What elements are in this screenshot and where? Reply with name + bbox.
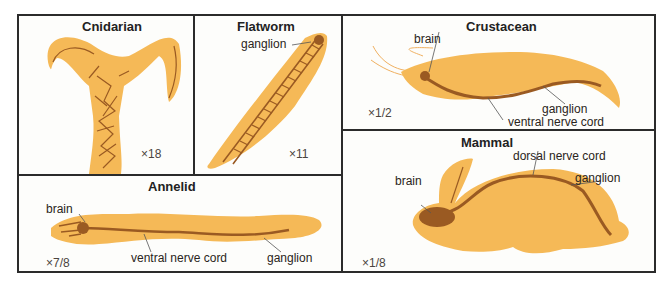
label-dorsal-nerve-cord: dorsal nerve cord	[513, 149, 606, 163]
panel-annelid: Annelid brain ventral nerve cord ganglio…	[17, 174, 343, 273]
mammal-illustration	[343, 131, 658, 275]
scale-label: ×1/8	[362, 256, 386, 270]
label-ganglion: ganglion	[542, 102, 587, 116]
panel-flatworm: Flatworm ganglion ×11	[193, 14, 343, 176]
label-ventral-nerve-cord: ventral nerve cord	[131, 251, 227, 265]
panel-title: Annelid	[148, 179, 196, 194]
panel-cnidarian: Cnidarian ×18	[17, 14, 195, 176]
panel-title: Crustacean	[466, 19, 537, 34]
panel-title: Mammal	[461, 135, 513, 150]
panel-mammal: Mammal dorsal nerve cord brain ganglion …	[341, 129, 656, 273]
cnidarian-illustration	[19, 16, 197, 178]
scale-label: ×18	[141, 147, 161, 161]
label-ventral-nerve-cord: ventral nerve cord	[508, 115, 604, 129]
scale-label: ×11	[289, 147, 308, 161]
label-ganglion: ganglion	[575, 171, 620, 185]
label-brain: brain	[414, 32, 441, 46]
label-ganglion: ganglion	[241, 37, 286, 51]
label-brain: brain	[46, 202, 73, 216]
label-ganglion: ganglion	[267, 251, 312, 265]
panel-crustacean: Crustacean brain ganglion ventral nerve …	[341, 14, 656, 131]
scale-label: ×1/2	[368, 106, 392, 120]
label-brain: brain	[395, 174, 422, 188]
scale-label: ×7/8	[46, 256, 70, 270]
panel-title: Cnidarian	[82, 19, 142, 34]
panel-title: Flatworm	[237, 19, 295, 34]
